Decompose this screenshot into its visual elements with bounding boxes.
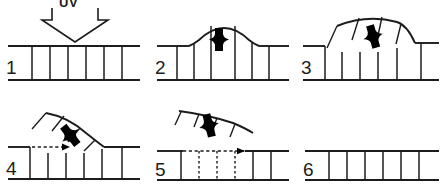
delamination-front-arrow <box>32 144 70 151</box>
panel-index-3: 3 <box>301 57 312 78</box>
panel-6: 6 <box>297 95 445 189</box>
flap-struts <box>327 17 401 48</box>
defect-bowtie-icon <box>55 120 85 150</box>
panel-index-6: 6 <box>303 159 314 180</box>
panel-5: 5 <box>149 95 297 189</box>
lattice-struts <box>329 151 419 180</box>
panel-index-2: 2 <box>155 57 166 78</box>
figure-root: UV 1 <box>0 0 445 189</box>
lattice-struts <box>325 43 421 80</box>
lattice-struts <box>181 151 271 180</box>
panel-2: 2 <box>149 0 297 94</box>
panel-3: 3 <box>297 0 445 94</box>
panel-index-1: 1 <box>6 57 17 78</box>
defect-bowtie-icon <box>360 23 386 51</box>
panel-index-4: 4 <box>6 158 17 179</box>
panel-4: 4 <box>0 95 148 189</box>
panel-index-5: 5 <box>155 159 166 180</box>
defect-bowtie-icon <box>197 112 222 139</box>
panel-1: UV 1 <box>0 0 148 94</box>
lattice-struts <box>30 147 122 179</box>
uv-arrow-icon <box>42 8 108 42</box>
lattice-struts <box>32 46 122 80</box>
healing-direction-arrow <box>237 148 245 154</box>
